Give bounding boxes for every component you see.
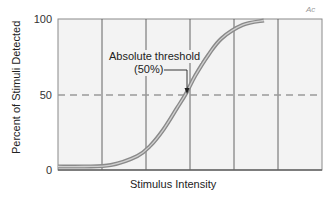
annotation-label-line1: Absolute threshold <box>108 50 201 63</box>
x-axis-title: Stimulus Intensity <box>130 178 216 190</box>
y-tick-50: 50 <box>22 89 52 101</box>
y-axis-title: Percent of Stimuli Detected <box>10 34 22 154</box>
y-tick-0: 0 <box>22 164 52 176</box>
annotation-label-line2: (50%) <box>133 63 164 76</box>
corner-mark: Ac <box>306 5 315 14</box>
y-tick-100: 100 <box>22 13 52 25</box>
